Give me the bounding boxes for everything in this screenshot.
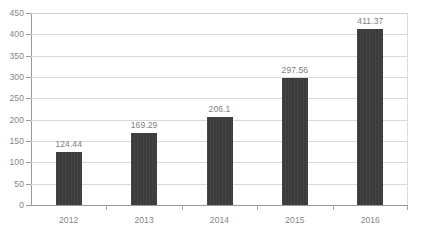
x-axis-tick <box>333 206 334 210</box>
y-axis-tick-label: 150 <box>0 137 24 146</box>
x-axis-tick-label: 2015 <box>285 216 304 225</box>
x-axis-tick <box>182 206 183 210</box>
y-axis-tick-label: 350 <box>0 52 24 61</box>
bar-value-label: 124.44 <box>55 140 82 149</box>
bar-value-label: 297.56 <box>282 66 309 75</box>
bar-value-label: 169.29 <box>131 121 158 130</box>
gridline <box>31 56 408 57</box>
x-axis-tick-label: 2016 <box>361 216 380 225</box>
gridline <box>31 13 408 14</box>
x-axis-tick <box>106 206 107 210</box>
gridline <box>31 34 408 35</box>
y-axis-tick-label: 300 <box>0 73 24 82</box>
bar[interactable] <box>56 152 82 205</box>
y-axis-tick-label: 200 <box>0 116 24 125</box>
gridline <box>31 77 408 78</box>
x-axis-tick-label: 2014 <box>210 216 229 225</box>
bar-value-label: 206.1 <box>209 105 231 114</box>
bar[interactable] <box>207 117 233 205</box>
y-axis-tick-label: 0 <box>0 201 24 210</box>
bar-chart: 050100150200250300350400450 201220132014… <box>0 0 422 239</box>
x-axis-tick <box>257 206 258 210</box>
y-axis-tick-label: 50 <box>0 180 24 189</box>
y-axis-tick-label: 400 <box>0 30 24 39</box>
y-axis-tick-label: 250 <box>0 94 24 103</box>
bar[interactable] <box>282 78 308 205</box>
bar[interactable] <box>131 133 157 205</box>
y-axis-tick-label: 450 <box>0 9 24 18</box>
gridline <box>31 98 408 99</box>
x-axis-tick <box>407 206 408 210</box>
y-axis-labels: 050100150200250300350400450 <box>0 0 24 239</box>
bar[interactable] <box>357 29 383 205</box>
x-axis-tick-label: 2013 <box>134 216 153 225</box>
gridline <box>31 205 408 206</box>
bar-value-label: 411.37 <box>357 17 383 26</box>
y-axis-tick-label: 100 <box>0 158 24 167</box>
x-axis-tick-label: 2012 <box>59 216 78 225</box>
